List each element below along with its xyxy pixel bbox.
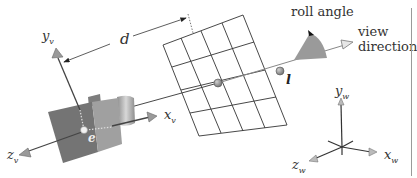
label-view-direction: view direction [358, 24, 417, 54]
view-direction-arrowhead [341, 40, 353, 49]
z-v-arrowhead [19, 148, 31, 157]
vertical-divider [411, 8, 412, 176]
label-y-w: yw [335, 84, 349, 101]
label-e: e [88, 132, 96, 144]
label-d: d [120, 32, 130, 47]
label-y-v: yv [42, 29, 54, 46]
label-x-w: xw [384, 148, 398, 165]
label-z-w: zw [292, 158, 306, 175]
world-axes [309, 98, 377, 162]
label-z-v: zv [7, 148, 18, 165]
image-plane-grid [163, 15, 287, 136]
label-x-v: xv [164, 108, 176, 125]
camera-body [48, 94, 135, 163]
grid-center-point [214, 79, 222, 87]
y-v-arrowhead [52, 48, 63, 58]
label-roll-angle: roll angle [291, 5, 354, 18]
roll-angle-cone [294, 30, 327, 60]
look-at-point-l [276, 67, 284, 75]
eye-point-e [81, 127, 88, 134]
roll-arrow-icon [308, 30, 314, 36]
x-v-arrowhead [147, 112, 157, 122]
label-l: l [286, 73, 291, 86]
